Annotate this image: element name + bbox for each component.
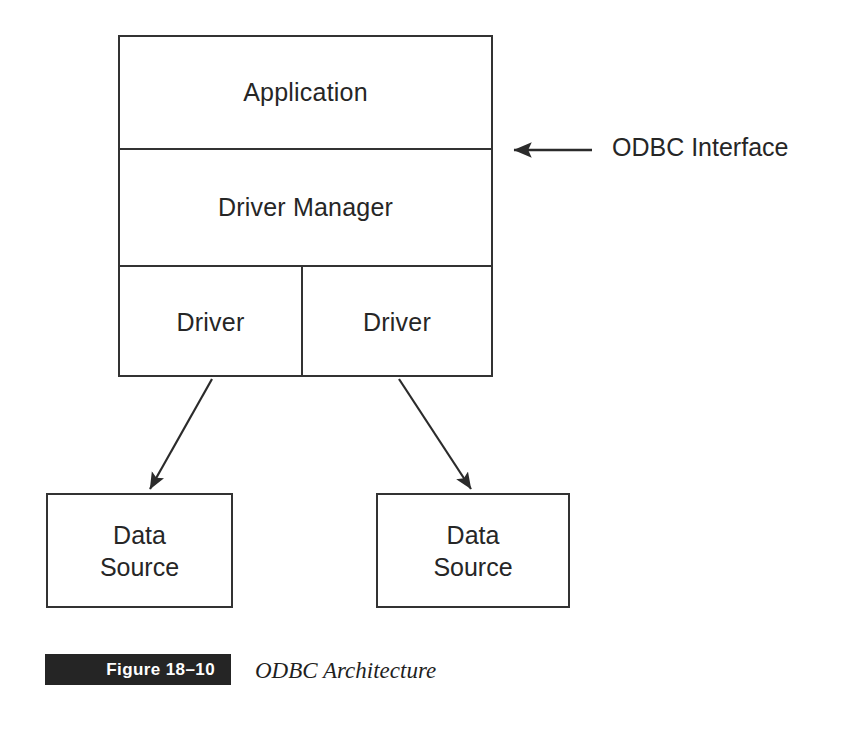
data-source-right-label: Data Source	[433, 519, 512, 583]
driver-left-label: Driver	[177, 308, 245, 337]
application-box: Application	[120, 37, 491, 148]
data-source-left-line1: Data	[113, 521, 166, 549]
data-source-left-line2: Source	[100, 553, 179, 581]
data-source-left-label: Data Source	[100, 519, 179, 583]
application-label: Application	[243, 78, 368, 107]
driver-manager-label: Driver Manager	[218, 193, 393, 222]
driver-manager-box: Driver Manager	[120, 150, 491, 265]
data-source-right-line2: Source	[433, 553, 512, 581]
stack-row-drivers: Driver Driver	[120, 267, 491, 377]
data-source-box-left: Data Source	[46, 493, 233, 608]
data-source-box-right: Data Source	[376, 493, 570, 608]
stack-row-application: Application	[120, 37, 491, 150]
connector-driver-right-to-data-source-right	[399, 379, 471, 489]
figure-canvas: Application Driver Manager Driver Driver…	[0, 0, 861, 744]
connector-driver-left-to-data-source-left	[150, 379, 212, 489]
figure-number-text: Figure 18–10	[106, 660, 215, 680]
driver-box-left: Driver	[120, 267, 303, 377]
stack-row-driver-manager: Driver Manager	[120, 150, 491, 267]
driver-box-right: Driver	[303, 267, 491, 377]
figure-title: ODBC Architecture	[255, 658, 436, 684]
odbc-stack-diagram: Application Driver Manager Driver Driver	[118, 35, 493, 377]
data-source-right-line1: Data	[447, 521, 500, 549]
odbc-interface-annotation-label: ODBC Interface	[612, 135, 788, 160]
figure-number-badge: Figure 18–10	[45, 654, 231, 685]
figure-caption: Figure 18–10 ODBC Architecture	[45, 654, 505, 688]
driver-right-label: Driver	[363, 308, 431, 337]
